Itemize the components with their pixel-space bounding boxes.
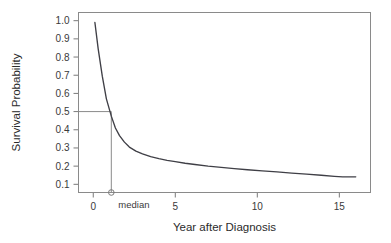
y-tick-label: 0.1 [56,179,70,190]
x-tick-label: 5 [173,201,179,212]
chart-canvas: 0.10.20.30.40.50.60.70.80.91.0 051015 me… [0,0,391,243]
y-tick-label: 0.9 [56,33,70,44]
y-axis-title: Survival Probability [10,53,22,151]
y-tick-label: 0.2 [56,161,70,172]
x-tick-label: 0 [90,201,96,212]
y-tick-label: 0.6 [56,88,70,99]
x-tick-label: 15 [334,201,346,212]
y-tick-label: 0.5 [56,106,70,117]
y-tick-label: 0.8 [56,52,70,63]
y-tick-label: 0.4 [56,124,70,135]
median-label: median [118,199,149,210]
x-tick-label: 10 [252,201,264,212]
y-tick-label: 0.7 [56,70,70,81]
survival-chart: 0.10.20.30.40.50.60.70.80.91.0 051015 me… [0,0,391,243]
y-tick-label: 0.3 [56,142,70,153]
y-tick-label: 1.0 [56,15,70,26]
x-axis-title: Year after Diagnosis [173,221,276,233]
